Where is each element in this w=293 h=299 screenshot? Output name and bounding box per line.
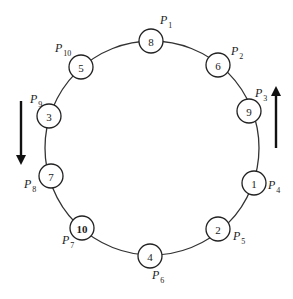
- node-value: 8: [148, 36, 154, 48]
- ring-node: 2P5: [206, 217, 245, 246]
- ring-diagram: 8P16P29P31P42P54P610P77P83P95P10: [0, 0, 293, 299]
- node-value: 2: [215, 224, 221, 236]
- ring-node: 9P3: [237, 86, 267, 123]
- node-value: 7: [48, 171, 54, 183]
- position-label: P5: [232, 229, 245, 246]
- ring-node: 3P9: [29, 92, 61, 128]
- ring-node: 10P7: [61, 216, 94, 250]
- ring-node: 1P4: [242, 171, 280, 195]
- position-label: P2: [230, 44, 243, 61]
- node-value: 6: [215, 60, 221, 72]
- arrow-down-icon: [16, 101, 26, 165]
- ring-node: 7P8: [23, 164, 63, 194]
- node-value: 4: [147, 251, 153, 263]
- arrow-up-icon: [271, 86, 281, 148]
- position-label: P8: [23, 177, 36, 194]
- position-label: P4: [267, 178, 280, 195]
- node-value: 9: [246, 106, 252, 118]
- ring-nodes: 8P16P29P31P42P54P610P77P83P95P10: [23, 13, 280, 285]
- position-label: P1: [159, 13, 172, 30]
- ring-node: 6P2: [206, 44, 243, 77]
- position-label: P3: [254, 86, 267, 103]
- node-value: 3: [46, 111, 52, 123]
- position-label: P6: [151, 268, 164, 285]
- node-value: 10: [77, 223, 89, 235]
- ring-node: 4P6: [138, 244, 164, 285]
- node-value: 1: [251, 178, 257, 190]
- ring-node: 8P1: [139, 13, 172, 53]
- node-value: 5: [78, 62, 84, 74]
- position-label: P10: [54, 41, 71, 58]
- ring-node: 5P10: [54, 41, 93, 79]
- position-label: P9: [29, 92, 42, 109]
